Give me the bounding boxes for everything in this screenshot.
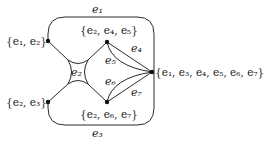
edge-label-e7: e₇ xyxy=(131,86,143,99)
vertex-label-v5: {e₂, e₆, e₇} xyxy=(80,108,138,121)
edge-label-e6: e₆ xyxy=(105,75,117,88)
edge-label-e2: e₂ xyxy=(71,66,82,79)
edge-label-e1: e₁ xyxy=(92,3,103,16)
vertex-v5 xyxy=(105,100,109,104)
vertex-label-v4: {e₂, e₃} xyxy=(6,96,47,109)
edge-label-e3: e₃ xyxy=(92,127,103,140)
edge-label-e5: e₅ xyxy=(105,54,117,67)
vertex-v3 xyxy=(150,70,154,74)
vertex-label-v2: {e₂, e₄, e₅} xyxy=(80,24,138,37)
hypergraph-diagram: e₁ e₂ e₃ e₄ e₅ e₆ e₇ {e₁, e₂} {e₂, e₄, e… xyxy=(0,0,264,143)
vertex-v2 xyxy=(105,40,109,44)
vertex-label-v1: {e₁, e₂} xyxy=(6,35,47,48)
edge-e2-arm-v1 xyxy=(48,41,68,60)
vertex-label-v3: {e₁, e₃, e₄, e₅, e₆, e₇} xyxy=(155,66,264,79)
edge-e2-arm-v4 xyxy=(48,84,68,102)
edge-label-e4: e₄ xyxy=(131,42,142,55)
